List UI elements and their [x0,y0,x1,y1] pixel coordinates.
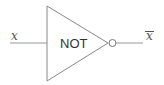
gate-label: NOT [60,36,88,51]
inversion-bubble-icon [109,40,116,47]
input-label: x [11,30,18,42]
not-gate-diagram: NOT [0,0,164,85]
output-label: x [146,30,153,42]
